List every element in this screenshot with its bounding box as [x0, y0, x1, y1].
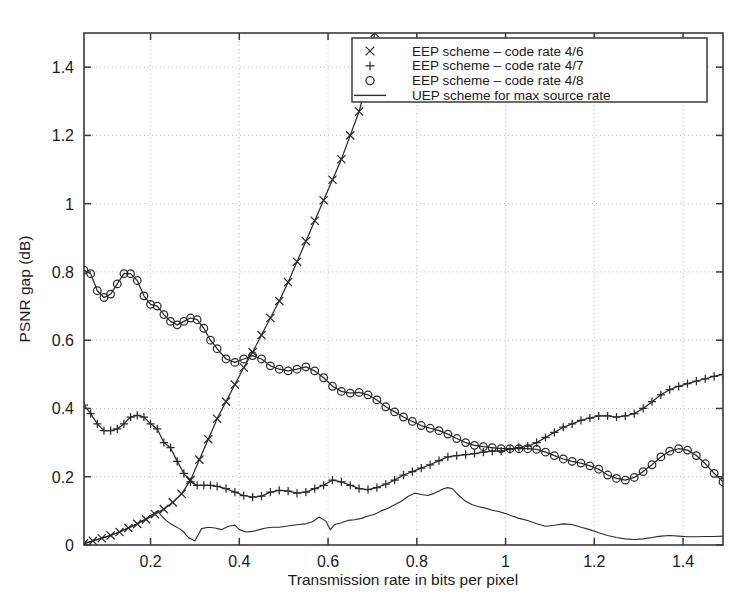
x-tick-labels: 0.20.40.60.811.21.4 [139, 553, 694, 570]
x-tick-label: 0.6 [317, 553, 339, 570]
figure-container: 0.20.40.60.811.21.4 00.20.40.60.811.21.4… [0, 0, 755, 606]
y-tick-label: 0 [65, 537, 74, 554]
y-tick-labels: 00.20.40.60.811.21.4 [52, 59, 74, 554]
x-tick-label: 1.4 [672, 553, 694, 570]
y-tick-label: 0.6 [52, 332, 74, 349]
y-tick-label: 0.2 [52, 469, 74, 486]
x-axis-title: Transmission rate in bits per pixel [288, 571, 518, 588]
y-tick-label: 0.8 [52, 264, 74, 281]
legend: EEP scheme – code rate 4/6EEP scheme – c… [352, 38, 707, 103]
y-tick-label: 1.2 [52, 127, 74, 144]
legend-item-label: EEP scheme – code rate 4/8 [412, 73, 584, 88]
y-tick-label: 1 [65, 196, 74, 213]
y-tick-label: 1.4 [52, 59, 74, 76]
x-tick-label: 1 [501, 553, 510, 570]
y-tick-label: 0.4 [52, 400, 74, 417]
x-tick-label: 0.2 [139, 553, 161, 570]
x-tick-label: 1.2 [583, 553, 605, 570]
legend-item-label: EEP scheme – code rate 4/6 [412, 44, 584, 59]
x-tick-label: 0.4 [228, 553, 250, 570]
psnr-gap-line-chart: 0.20.40.60.811.21.4 00.20.40.60.811.21.4… [0, 0, 755, 606]
y-axis-title: PSNR gap (dB) [16, 236, 33, 343]
legend-item-label: UEP scheme for max source rate [412, 88, 611, 103]
plot-area-background [84, 33, 723, 545]
x-tick-label: 0.8 [406, 553, 428, 570]
legend-item-label: EEP scheme – code rate 4/7 [412, 58, 584, 73]
